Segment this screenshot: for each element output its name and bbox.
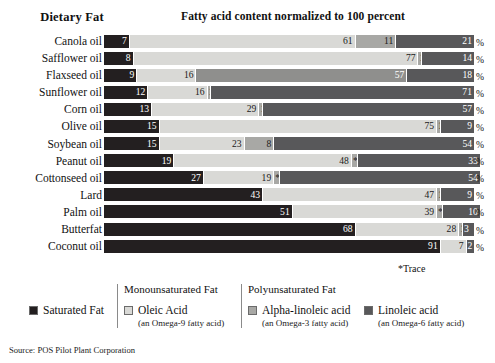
stacked-bar: 877114 (104, 52, 474, 65)
bar-segment-value: 71 (462, 87, 472, 97)
bar-segment-ole: 29 (152, 103, 259, 116)
bar-segment-lin: 2 (467, 240, 474, 253)
bar-segment-value: 19 (162, 156, 172, 166)
bar-segment-lin: 71 (211, 86, 474, 99)
chart-legend: Monounsaturated Fat Polyunsaturated Fat … (0, 283, 495, 335)
legend-label-oleic-acid: Oleic Acid (138, 304, 188, 316)
legend-sub-linoleic-acid: (an Omega-6 fatty acid) (378, 318, 464, 328)
bar-segment-value: 15 (147, 139, 157, 149)
legend-swatch-saturated-fat (29, 306, 38, 315)
stacked-bar: 2719*54 (104, 171, 474, 184)
bar-segment-sat: 51 (104, 205, 293, 218)
bar-segment-value: 47 (424, 190, 434, 200)
legend-swatch-oleic-acid (124, 306, 133, 315)
chart-row: Coconut oil9172% (0, 238, 495, 255)
bar-segment-value: 39 (424, 207, 434, 217)
bar-segment-value: 14 (462, 53, 472, 63)
stacked-bar: 434719 (104, 188, 474, 201)
bar-segment-lin: 54 (280, 171, 480, 184)
bar-segment-value: 9 (467, 190, 472, 200)
column-header-dietary-fat: Dietary Fat (27, 10, 117, 25)
bar-segment-sat: 9 (104, 69, 137, 82)
bar-segment-ole: 61 (130, 35, 356, 48)
percent-symbol: % (476, 173, 484, 184)
bar-segment-value: 3 (464, 224, 469, 234)
row-label: Cottonseed oil (35, 171, 102, 186)
row-label: Palm oil (63, 205, 102, 220)
bar-segment-sat: 68 (104, 223, 356, 236)
legend-swatch-linoleic-acid (364, 306, 373, 315)
bar-segment-value: 16 (195, 87, 205, 97)
bar-segment-sat: 15 (104, 137, 160, 150)
bar-segment-lin: 10 (443, 205, 480, 218)
bar-segment-value: 54 (462, 139, 472, 149)
chart-row: Peanut oil1948*33% (0, 153, 495, 170)
bar-segment-value: 7 (122, 36, 127, 46)
chart-page: Dietary Fat Fatty acid content normalize… (0, 0, 495, 363)
bar-segment-ala: 11 (356, 35, 397, 48)
row-label: Canola oil (54, 34, 102, 49)
row-label: Olive oil (61, 119, 102, 134)
percent-symbol: % (476, 53, 484, 64)
percent-symbol: % (476, 190, 484, 201)
bar-segment-lin: 14 (422, 52, 474, 65)
bar-segment-sat: 13 (104, 103, 152, 116)
bar-segment-ole: 47 (263, 188, 437, 201)
row-label: Coconut oil (48, 239, 102, 254)
percent-symbol: % (476, 36, 484, 47)
bar-segment-value: 15 (147, 122, 157, 132)
bar-segment-value: 9 (130, 70, 135, 80)
bar-segment-value: 43 (251, 190, 261, 200)
legend-group-monounsaturated: Monounsaturated Fat (124, 283, 218, 295)
bar-segment-ole: 48 (174, 154, 352, 167)
bar-segment-value: 7 (459, 241, 464, 251)
stacked-bar: 1948*33 (104, 154, 474, 167)
bar-segment-sat: 12 (104, 86, 148, 99)
percent-symbol: % (476, 70, 484, 81)
bar-segment-value: 68 (343, 224, 353, 234)
bar-segment-value: 16 (184, 70, 194, 80)
bar-segment-value: 23 (232, 139, 242, 149)
chart-row: Olive oil157519% (0, 118, 495, 135)
chart-row: Safflower oil877114% (0, 50, 495, 67)
percent-symbol: % (476, 139, 484, 150)
bar-segment-ole: 28 (356, 223, 460, 236)
chart-row: Soybean oil1523854% (0, 136, 495, 153)
bar-segment-sat: 27 (104, 171, 204, 184)
row-label: Peanut oil (56, 154, 102, 169)
bar-segment-lin: 9 (441, 188, 474, 201)
legend-divider-2 (241, 284, 242, 328)
bar-segment-ole: 75 (160, 120, 438, 133)
stacked-bar: 1523854 (104, 137, 474, 150)
chart-row: Flaxseed oil9165718% (0, 67, 495, 84)
bar-segment-ole: 19 (204, 171, 274, 184)
legend-label-saturated-fat: Saturated Fat (43, 304, 104, 316)
bar-segment-sat: 15 (104, 120, 160, 133)
row-label: Safflower oil (42, 51, 102, 66)
bar-segment-ole: 23 (160, 137, 245, 150)
percent-symbol: % (476, 224, 484, 235)
bar-segment-value: 48 (339, 156, 349, 166)
bar-segment-sat: 19 (104, 154, 174, 167)
bar-segment-value: 57 (462, 105, 472, 115)
bar-segment-ole: 39 (293, 205, 437, 218)
chart-row: Lard434719% (0, 187, 495, 204)
bar-segment-lin: 18 (407, 69, 474, 82)
bar-segment-value: 11 (384, 36, 393, 46)
stacked-bar: 1216171 (104, 86, 474, 99)
row-label: Sunflower oil (39, 85, 102, 100)
bar-segment-value: 18 (462, 70, 472, 80)
legend-divider-1 (117, 284, 118, 328)
percent-symbol: % (476, 207, 484, 218)
bar-segment-value: 51 (280, 207, 290, 217)
bar-segment-value: 12 (136, 87, 146, 97)
bar-segment-lin: 33 (358, 154, 480, 167)
stacked-bar: 9172 (104, 240, 474, 253)
legend-group-polyunsaturated: Polyunsaturated Fat (248, 283, 336, 295)
legend-swatch-alpha-linoleic-acid (248, 306, 257, 315)
bar-segment-value: 57 (395, 70, 405, 80)
percent-symbol: % (476, 104, 484, 115)
bar-segment-ole: 7 (441, 240, 467, 253)
bar-segment-ala: 8 (245, 137, 275, 150)
bar-segment-lin: 9 (441, 120, 474, 133)
